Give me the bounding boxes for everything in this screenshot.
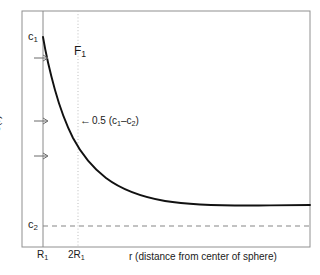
c2-label: c2 — [28, 219, 38, 230]
c1-label: c1 — [28, 31, 38, 42]
plot-canvas — [0, 0, 320, 275]
y-axis-title: c(r) — [0, 115, 2, 132]
chart-figure: c1 c2 F1 ← 0.5 (c1–c2) R1 2R1 r (distanc… — [0, 0, 320, 275]
x-axis-title: r (distance from center of sphere) — [129, 252, 277, 262]
half-difference-label: 0.5 (c1–c2) — [92, 116, 139, 126]
x-tick-label-2r1: 2R1 — [68, 250, 85, 260]
plot-frame — [22, 11, 310, 247]
flux-arrow-2 — [34, 118, 48, 124]
f1-flux-label: F1 — [74, 45, 86, 57]
flux-arrow-3 — [34, 153, 48, 159]
x-tick-label-r1: R1 — [37, 250, 48, 260]
arrow-left-icon: ← — [80, 115, 91, 126]
flux-arrows-group — [34, 55, 48, 159]
